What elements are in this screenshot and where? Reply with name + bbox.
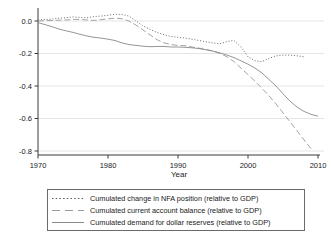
series-line-dashed <box>38 18 311 149</box>
y-tick-label: -0.2 <box>19 49 32 58</box>
x-axis-title: Year <box>38 170 320 179</box>
series-line-solid <box>38 23 318 117</box>
line-chart: 0.0-0.2-0.4-0.6-0.819701980199020002010 <box>0 0 331 186</box>
x-tick-label: 1970 <box>30 161 47 170</box>
y-tick-label: 0.0 <box>22 17 32 26</box>
y-tick-label: -0.8 <box>19 147 32 156</box>
legend-item: Cumulated demand for dollar reserves (re… <box>50 216 304 228</box>
chart-figure: 0.0-0.2-0.4-0.6-0.819701980199020002010 … <box>0 0 331 242</box>
legend-label: Cumulated current account balance (relat… <box>90 206 262 215</box>
y-tick-label: -0.6 <box>19 114 32 123</box>
y-tick-label: -0.4 <box>19 82 32 91</box>
legend-item: Cumulated current account balance (relat… <box>50 204 304 216</box>
x-tick-label: 1990 <box>170 161 187 170</box>
legend-dotted-line-icon <box>51 194 85 203</box>
x-tick-label: 1980 <box>100 161 117 170</box>
legend-solid-line-icon <box>51 218 85 227</box>
legend: Cumulated change in NFA position (relati… <box>47 189 305 231</box>
legend-dashed-line-icon <box>51 206 85 215</box>
legend-label: Cumulated change in NFA position (relati… <box>90 194 258 203</box>
legend-item: Cumulated change in NFA position (relati… <box>50 192 304 204</box>
legend-label: Cumulated demand for dollar reserves (re… <box>90 218 270 227</box>
x-tick-label: 2010 <box>310 161 327 170</box>
x-tick-label: 2000 <box>240 161 257 170</box>
